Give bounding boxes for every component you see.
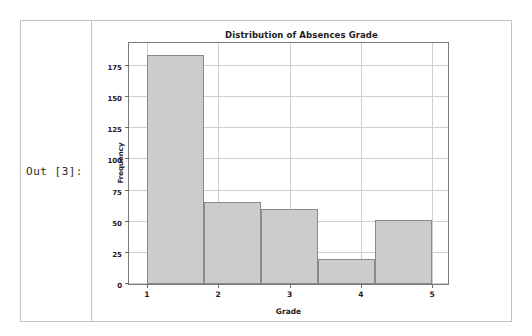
y-tick-mark [125,96,129,97]
gridline-vertical [361,43,362,284]
y-tick-label: 125 [107,126,122,134]
y-tick-mark [125,283,129,284]
output-prompt-label: Out [3]: [21,165,83,178]
y-tick-label: 175 [107,64,122,72]
matplotlib-figure: Distribution of Absences Grade Frequency… [92,21,511,321]
y-tick-mark [125,158,129,159]
x-tick-label: 4 [358,290,363,299]
histogram-bar [204,202,261,284]
notebook-output-screenshot: Out [3]: Distribution of Absences Grade … [0,0,532,336]
chart-title: Distribution of Absences Grade [92,30,511,40]
x-tick-mark [147,284,148,288]
x-tick-mark [290,284,291,288]
y-tick-mark [125,190,129,191]
histogram-bar [261,209,318,284]
x-tick-label: 5 [430,290,435,299]
y-tick-mark [125,252,129,253]
y-tick-mark [125,221,129,222]
x-axis-title: Grade [128,307,449,316]
output-cell-frame: Out [3]: Distribution of Absences Grade … [20,20,512,322]
histogram-bar [375,220,432,284]
y-tick-label: 50 [112,220,122,228]
y-tick-mark [125,127,129,128]
y-tick-label: 150 [107,95,122,103]
x-tick-label: 3 [287,290,292,299]
output-prompt-column: Out [3]: [21,21,91,321]
plot-area [129,43,448,284]
y-tick-label: 100 [107,157,122,165]
x-tick-mark [432,284,433,288]
plot-axes: 025507510012515017512345 [128,42,449,285]
y-tick-label: 75 [112,189,122,197]
y-tick-mark [125,65,129,66]
y-tick-label: 25 [112,251,122,259]
histogram-bar [318,259,375,284]
histogram-bar [147,55,204,284]
gridline-vertical [432,43,433,284]
x-tick-label: 2 [216,290,221,299]
x-tick-mark [361,284,362,288]
x-tick-mark [218,284,219,288]
y-tick-label: 0 [117,282,122,290]
x-tick-label: 1 [144,290,149,299]
